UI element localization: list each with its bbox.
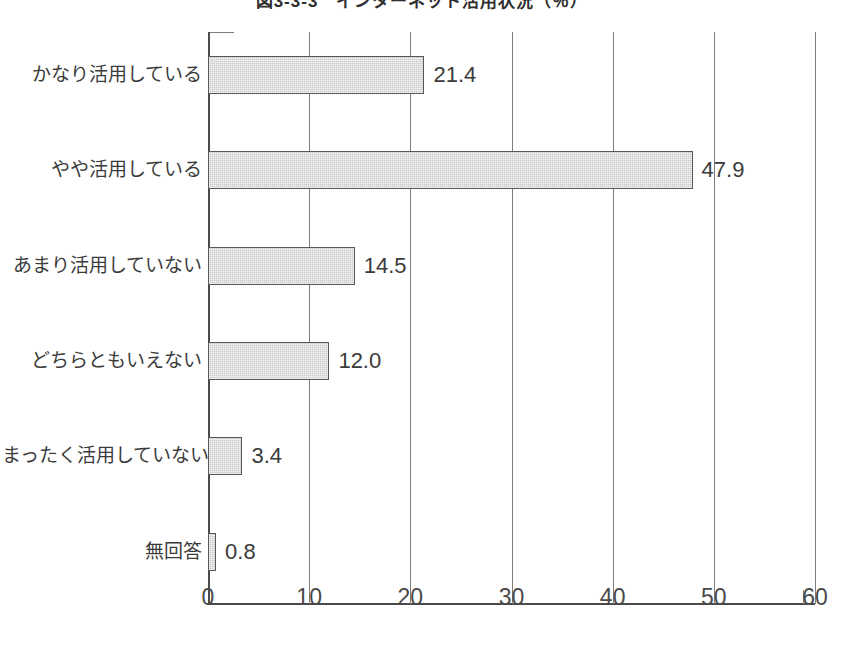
category-label: まったく活用していない	[2, 437, 202, 475]
bar-row: やや活用している47.9	[208, 127, 815, 222]
category-label: どちらともいえない	[2, 342, 202, 380]
bar	[208, 342, 329, 380]
category-label: かなり活用している	[2, 56, 202, 94]
category-label: あまり活用していない	[2, 247, 202, 285]
x-tick-label-0: 0	[178, 584, 238, 611]
bar	[208, 247, 355, 285]
x-tick-label-20: 20	[380, 584, 440, 611]
bar	[208, 151, 693, 189]
bar	[208, 56, 424, 94]
bar-value-label: 14.5	[355, 247, 407, 285]
gridline-60	[815, 32, 816, 604]
bar	[208, 533, 216, 571]
bar-chart: 図3-3-3 インターネット活用状況（％） かなり活用している21.4やや活用し…	[0, 0, 844, 658]
bar-value-label: 47.9	[693, 151, 745, 189]
bar-value-label: 0.8	[216, 533, 256, 571]
x-tick-label-50: 50	[684, 584, 744, 611]
x-tick-label-10: 10	[279, 584, 339, 611]
bar-row: どちらともいえない12.0	[208, 318, 815, 413]
bar-row: まったく活用していない3.4	[208, 413, 815, 508]
chart-title: 図3-3-3 インターネット活用状況（％）	[0, 0, 844, 12]
bar-value-label: 21.4	[424, 56, 476, 94]
x-tick-label-60: 60	[785, 584, 844, 611]
bar-value-label: 3.4	[242, 437, 282, 475]
category-label: 無回答	[2, 533, 202, 571]
x-tick-label-30: 30	[482, 584, 542, 611]
bar	[208, 437, 242, 475]
category-label: やや活用している	[2, 151, 202, 189]
bar-row: あまり活用していない14.5	[208, 223, 815, 318]
bar-value-label: 12.0	[329, 342, 381, 380]
plot-area: かなり活用している21.4やや活用している47.9あまり活用していない14.5ど…	[208, 32, 815, 604]
bar-row: かなり活用している21.4	[208, 32, 815, 127]
x-tick-label-40: 40	[583, 584, 643, 611]
